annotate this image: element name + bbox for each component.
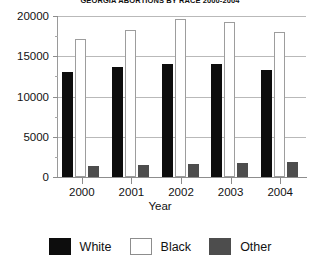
legend-label: Other (240, 240, 271, 254)
y-axis-label: 0 (43, 171, 49, 183)
bar-other-2000 (88, 166, 99, 177)
bar-white-2004 (261, 70, 272, 177)
y-axis-label: 15000 (17, 50, 49, 62)
legend-item-black: Black (130, 238, 192, 255)
bar-group (62, 16, 99, 177)
solid-black-swatch (49, 238, 71, 255)
y-axis-tick (53, 16, 58, 17)
legend-item-white: White (49, 238, 112, 255)
bar-group (211, 16, 248, 177)
x-axis-line (58, 177, 307, 178)
y-axis-label: 20000 (17, 10, 49, 22)
bar-black-2002 (175, 19, 186, 177)
x-axis-label-2003: 2003 (218, 186, 244, 198)
x-axis-tick (131, 177, 132, 184)
bar-other-2003 (237, 163, 248, 177)
x-axis-title: Year (0, 200, 320, 212)
y-axis-tick (53, 56, 58, 57)
solid-gray-swatch (209, 238, 231, 255)
bar-white-2001 (112, 67, 123, 177)
bar-white-2002 (162, 64, 173, 177)
x-axis-tick (280, 177, 281, 184)
y-axis-minor-tick (55, 117, 58, 118)
bar-white-2000 (62, 72, 73, 177)
x-axis-label-2002: 2002 (168, 186, 194, 198)
y-axis-tick (53, 97, 58, 98)
outlined-white-swatch (130, 238, 152, 255)
x-axis-tick (82, 177, 83, 184)
bar-group (162, 16, 199, 177)
x-axis-tick (231, 177, 232, 184)
plot-area (57, 16, 305, 177)
legend-label: Black (161, 240, 192, 254)
y-axis-label: 10000 (17, 91, 49, 103)
x-axis-label-2000: 2000 (69, 186, 95, 198)
y-axis-minor-tick (55, 36, 58, 37)
y-axis-tick (53, 177, 58, 178)
y-axis-minor-tick (55, 157, 58, 158)
y-axis-minor-tick (55, 76, 58, 77)
bar-group (261, 16, 298, 177)
bar-black-2004 (274, 32, 285, 177)
bar-chart: GEORGIA ABORTIONS BY RACE 2000-2004 0500… (0, 0, 320, 266)
x-axis-label-2001: 2001 (119, 186, 145, 198)
chart-legend: WhiteBlackOther (0, 238, 320, 255)
x-axis-label-2004: 2004 (267, 186, 293, 198)
chart-title: GEORGIA ABORTIONS BY RACE 2000-2004 (0, 0, 320, 5)
y-axis-tick (53, 137, 58, 138)
y-axis-label: 5000 (23, 131, 49, 143)
legend-label: White (80, 240, 112, 254)
bar-group (112, 16, 149, 177)
bar-other-2002 (188, 164, 199, 177)
bar-black-2000 (75, 39, 86, 177)
x-axis-tick (181, 177, 182, 184)
legend-item-other: Other (209, 238, 271, 255)
bar-other-2001 (138, 165, 149, 177)
bar-black-2003 (224, 22, 235, 177)
bar-white-2003 (211, 64, 222, 177)
bar-other-2004 (287, 162, 298, 177)
bar-black-2001 (125, 30, 136, 177)
